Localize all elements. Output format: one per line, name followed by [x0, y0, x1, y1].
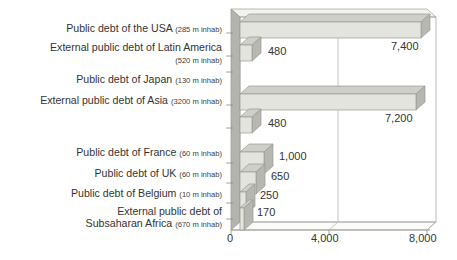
category-label-usa-sub: (285 m inhab) [175, 25, 222, 34]
category-label-subsaharan-africa-main: External public debt of [117, 205, 222, 217]
category-label-asia: External public debt of Asia (3200 m inh… [40, 95, 222, 107]
category-label-uk: Public debt of UK (60 m inhab) [95, 168, 222, 180]
category-label-asia-sub: (3200 m inhab) [171, 97, 222, 106]
value-label-usa: 7,400 [391, 40, 419, 52]
category-label-latin-america-sub: (520 m inhab) [175, 56, 222, 65]
category-label-usa: Public debt of the USA (285 m inhab) [66, 23, 222, 35]
category-label-asia-main: External public debt of Asia [40, 94, 168, 106]
category-label-usa-main: Public debt of the USA [66, 22, 172, 34]
category-label-france: Public debt of France (60 m inhab) [76, 147, 222, 159]
category-label-subsaharan-africa-main2: Subsaharan Africa [86, 217, 173, 229]
x-tick-label-0: 0 [227, 232, 233, 244]
category-label-subsaharan-africa: External public debt of Subsaharan Afric… [17, 206, 222, 230]
debt-bar-chart: Public debt of the USA (285 m inhab) Ext… [0, 0, 457, 260]
category-label-japan-sub: (130 m inhab) [175, 76, 222, 85]
value-label-japan: 7,200 [385, 112, 413, 124]
category-label-belgium-main: Public debt of Belgium [71, 187, 176, 199]
category-label-latin-america: External public debt of Latin America (5… [17, 42, 222, 66]
category-label-france-main: Public debt of France [76, 146, 176, 158]
category-label-latin-america-main: External public debt of Latin America [50, 41, 222, 53]
value-label-france: 1,000 [279, 150, 307, 162]
value-label-asia: 480 [268, 117, 286, 129]
category-label-uk-main: Public debt of UK [95, 167, 177, 179]
category-label-japan-main: Public debt of Japan [76, 73, 172, 85]
category-label-belgium-sub: (10 m inhab) [179, 190, 222, 199]
category-label-subsaharan-africa-sub: (670 m inhab) [175, 220, 222, 229]
value-label-uk: 650 [271, 170, 289, 182]
category-label-japan: Public debt of Japan (130 m inhab) [76, 74, 222, 86]
category-axis-labels: Public debt of the USA (285 m inhab) Ext… [0, 0, 228, 260]
category-label-uk-sub: (60 m inhab) [179, 170, 222, 179]
category-label-belgium: Public debt of Belgium (10 m inhab) [71, 188, 222, 200]
bar-japan [240, 86, 425, 110]
value-label-belgium: 250 [260, 189, 278, 201]
category-label-france-sub: (60 m inhab) [179, 149, 222, 158]
plot-left-wall [231, 9, 240, 230]
value-label-latin-america: 480 [268, 45, 286, 57]
x-tick-label-8000: 8,000 [409, 232, 437, 244]
value-label-subsaharan-africa: 170 [257, 206, 275, 218]
x-tick-label-4000: 4,000 [311, 232, 339, 244]
bar-usa [240, 14, 430, 38]
